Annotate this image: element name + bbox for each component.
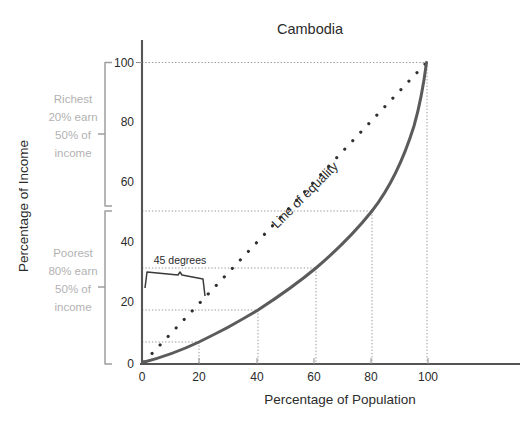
chart-figure: Cambodia 0 20 40 60 80 100 100 80 60 40 … [0, 0, 531, 428]
poorest-note-l4: income [54, 301, 91, 313]
x-tick-0: 0 [139, 370, 146, 384]
y-tick-60: 60 [121, 175, 135, 189]
richest-note-l4: income [54, 147, 91, 159]
lorenz-curve-chart: Cambodia 0 20 40 60 80 100 100 80 60 40 … [0, 0, 531, 428]
y-tick-labels: 100 80 60 40 20 0 [114, 56, 134, 371]
chart-title: Cambodia [277, 21, 344, 37]
x-axis-label: Percentage of Population [264, 392, 416, 407]
x-tick-20: 20 [192, 370, 206, 384]
richest-note-l2: 20% earn [48, 111, 97, 123]
poorest-note-l2: 80% earn [48, 265, 97, 277]
y-tick-100: 100 [114, 56, 134, 70]
y-tick-20: 20 [121, 295, 135, 309]
y-tick-0: 0 [127, 357, 134, 371]
forty-five-degrees-label: 45 degrees [154, 254, 207, 266]
x-tick-40: 40 [250, 370, 264, 384]
poorest-note-l1: Poorest [53, 247, 93, 259]
y-tick-80: 80 [121, 115, 135, 129]
x-tick-80: 80 [364, 370, 378, 384]
x-tick-100: 100 [418, 370, 438, 384]
x-tick-60: 60 [307, 370, 321, 384]
poorest-bracket [98, 211, 112, 364]
y-tick-40: 40 [121, 235, 135, 249]
poorest-note-l3: 50% of [55, 283, 92, 295]
richest-note: Richest 20% earn 50% of income [48, 93, 97, 159]
horizontal-gridlines [142, 63, 427, 343]
poorest-note: Poorest 80% earn 50% of income [48, 247, 97, 313]
x-tick-labels: 0 20 40 60 80 100 [139, 370, 439, 384]
forty-five-degrees-brace [145, 272, 205, 296]
richest-note-l3: 50% of [55, 129, 92, 141]
richest-note-l1: Richest [54, 93, 93, 105]
line-of-equality-label: Line of equality [269, 158, 342, 231]
richest-bracket [98, 63, 112, 207]
vertical-gridlines [199, 63, 427, 364]
y-axis-label: Percentage of Income [16, 140, 31, 272]
